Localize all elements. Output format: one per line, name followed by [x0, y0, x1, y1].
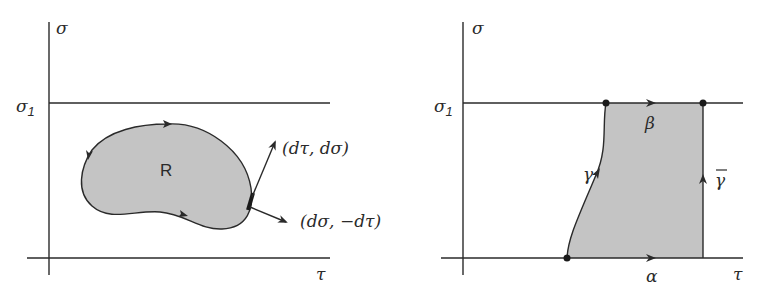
vertex-top-left [603, 100, 610, 107]
gamma-bar-label: γ [715, 170, 726, 190]
left-panel: σ τ σ1 R (dτ, dσ) (dσ, −dτ) [16, 18, 381, 284]
region-r-label: R [160, 161, 172, 180]
gamma-label: γ [583, 164, 594, 184]
left-sigma-label: σ [56, 18, 68, 38]
normal-vector-label: (dσ, −dτ) [300, 211, 381, 231]
right-tau-label: τ [733, 264, 743, 284]
beta-label: β [644, 113, 655, 133]
alpha-label: α [646, 266, 658, 286]
normal-vector-arrow [250, 207, 286, 222]
vertex-bottom-left [564, 255, 571, 262]
tangent-vector-label: (dτ, dσ) [282, 138, 349, 158]
diagram-canvas: σ τ σ1 R (dτ, dσ) (dσ, −dτ) σ τ σ1 β γ α… [0, 0, 760, 295]
vertex-top-right [700, 100, 707, 107]
left-sigma1-label: σ1 [16, 96, 35, 119]
left-tau-label: τ [316, 264, 326, 284]
right-panel: σ τ σ1 β γ α γ [434, 18, 743, 286]
right-sigma1-label: σ1 [434, 96, 453, 119]
right-sigma-label: σ [472, 18, 484, 38]
tangent-vector-arrow [252, 142, 275, 197]
